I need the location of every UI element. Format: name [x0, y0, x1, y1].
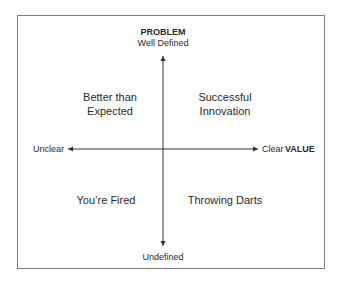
quadrant-top-right: Successful Innovation: [198, 90, 251, 118]
quadrant-bottom-left: You’re Fired: [77, 193, 136, 207]
vertical-axis-bottom-label: Undefined: [142, 252, 183, 262]
quadrant-top-left-line2: Expected: [83, 104, 137, 118]
vertical-axis-top-label: Well Defined: [138, 38, 189, 48]
quadrant-bottom-right-line1: Throwing Darts: [188, 193, 263, 207]
quadrant-top-right-line2: Innovation: [198, 104, 251, 118]
quadrant-bottom-left-line1: You’re Fired: [77, 193, 136, 207]
horizontal-axis-title: VALUE: [285, 144, 315, 154]
horizontal-axis-right-label: Clear: [262, 144, 284, 154]
quadrant-bottom-right: Throwing Darts: [188, 193, 263, 207]
horizontal-axis-left-label: Unclear: [33, 144, 64, 154]
quadrant-top-right-line1: Successful: [198, 90, 251, 104]
quadrant-top-left-line1: Better than: [83, 90, 137, 104]
vertical-axis-title: PROBLEM: [141, 27, 186, 37]
quadrant-top-left: Better than Expected: [83, 90, 137, 118]
